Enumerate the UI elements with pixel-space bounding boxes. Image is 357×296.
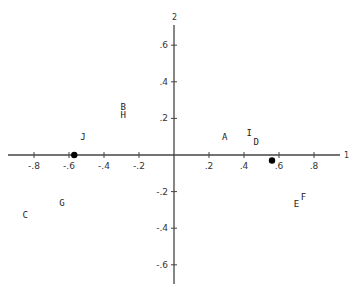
y-tick-label: -.2 [156, 187, 168, 197]
plot-area: 1 2 -.8-.6-.4-.2.2.4.6.8 .6.4.2-.2-.4-.6… [0, 0, 357, 296]
point-label-a: A [222, 132, 228, 142]
y-tick-label: .2 [159, 113, 168, 123]
point-label-j: J [80, 132, 85, 142]
x-tick-label: .8 [310, 161, 319, 171]
point-label-g: G [59, 198, 64, 208]
y-tick-label: .6 [159, 40, 168, 50]
point-label-i: I [247, 128, 252, 138]
x-tick-label: .4 [240, 161, 249, 171]
point-label-f: F [301, 192, 306, 202]
marker-dot [71, 152, 77, 158]
y-tick-label: -.4 [156, 223, 168, 233]
point-label-c: C [23, 210, 28, 220]
x-tick-label: .2 [205, 161, 214, 171]
x-tick-label: -.6 [63, 161, 75, 171]
x-tick-label: -.2 [133, 161, 145, 171]
scatter-chart: 1 2 -.8-.6-.4-.2.2.4.6.8 .6.4.2-.2-.4-.6… [0, 0, 357, 296]
x-tick-label: -.8 [28, 161, 40, 171]
y-tick-label: .4 [159, 77, 168, 87]
x-axis-end-label: 1 [344, 151, 349, 160]
marker-dot [269, 157, 275, 163]
point-label-d: D [254, 137, 259, 147]
x-tick-label: -.4 [98, 161, 110, 171]
x-tick-label: .6 [275, 161, 284, 171]
y-tick-label: -.6 [156, 260, 168, 270]
y-axis-end-label: 2 [172, 13, 177, 22]
point-label-h: H [121, 110, 126, 120]
point-label-e: E [294, 199, 299, 209]
